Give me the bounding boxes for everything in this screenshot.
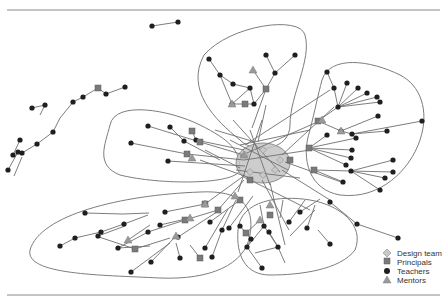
teacher-node (95, 233, 100, 238)
network-edges (8, 22, 422, 272)
teacher-node (353, 135, 358, 140)
principal-node (311, 167, 317, 173)
edge (314, 170, 343, 182)
principal-node (215, 207, 221, 213)
teacher-node (15, 149, 20, 154)
edge (170, 127, 184, 141)
teacher-node (349, 147, 354, 152)
edge (275, 55, 295, 73)
teacher-node (364, 90, 369, 95)
edge (165, 204, 205, 212)
legend: Design team Principals Teachers Mentors (383, 249, 442, 285)
teacher-node (272, 70, 277, 75)
edge (255, 247, 278, 253)
teacher-node (72, 235, 77, 240)
teacher-node (395, 235, 400, 240)
principal-node (263, 86, 269, 92)
edge (106, 87, 125, 94)
edge (351, 160, 393, 171)
edge (330, 202, 357, 224)
edge (266, 55, 275, 73)
principal-node (184, 151, 190, 157)
edge (205, 209, 228, 248)
edge (282, 170, 330, 200)
legend-item-design-team: Design team (383, 249, 442, 258)
principal-node (267, 212, 273, 218)
circle-icon (384, 268, 390, 274)
teacher-node (377, 99, 382, 104)
teacher-node (5, 167, 10, 172)
teacher-node (374, 94, 379, 99)
teacher-node (175, 19, 180, 24)
edge (209, 59, 220, 75)
teacher-node (354, 221, 359, 226)
teacher-node (165, 158, 170, 163)
principal-node (306, 145, 312, 151)
edge (118, 232, 148, 248)
teacher-node (70, 99, 75, 104)
edge (14, 157, 22, 176)
teacher-node (275, 244, 280, 249)
legend-item-teachers: Teachers (384, 267, 429, 276)
legend-item-mentors: Mentors (383, 276, 426, 285)
edge (233, 84, 250, 88)
teacher-node (237, 223, 242, 228)
teacher-node (207, 219, 212, 224)
cluster-hulls (30, 25, 424, 279)
teacher-node (355, 85, 360, 90)
edge (215, 130, 255, 142)
principal-node (242, 101, 248, 107)
legend-label: Mentors (397, 276, 426, 285)
edge (352, 131, 387, 134)
teacher-node (263, 52, 268, 57)
edge (309, 148, 346, 165)
teacher-node (247, 85, 252, 90)
teacher-node (219, 227, 224, 232)
legend-label: Design team (397, 249, 442, 258)
teacher-node (324, 132, 329, 137)
edge (148, 220, 185, 232)
teacher-node (335, 104, 340, 109)
cluster-hull (198, 25, 306, 149)
legend-label: Principals (397, 258, 432, 267)
teacher-node (206, 56, 211, 61)
teacher-node (377, 187, 382, 192)
teacher-node (149, 23, 154, 28)
edge (60, 102, 73, 118)
teacher-node (343, 162, 348, 167)
teacher-node (349, 131, 354, 136)
teacher-node (217, 72, 222, 77)
teacher-node (230, 81, 235, 86)
principal-node (189, 128, 195, 134)
edge (152, 22, 178, 26)
edge (338, 102, 380, 107)
edge (37, 132, 53, 144)
teacher-node (82, 210, 87, 215)
teacher-node (57, 243, 62, 248)
mentor-node (124, 236, 132, 243)
edge (290, 210, 315, 236)
edge (124, 215, 148, 224)
network-diagram: Design team Principals Teachers Mentors (0, 0, 447, 300)
diamond-icon (383, 249, 391, 257)
teacher-node (128, 140, 133, 145)
teacher-node (331, 85, 336, 90)
edge (278, 247, 285, 263)
teacher-node (419, 118, 424, 123)
triangle-icon (383, 276, 391, 283)
teacher-node (324, 69, 329, 74)
edge (300, 199, 320, 212)
teacher-node (384, 128, 389, 133)
edge (123, 213, 149, 214)
edge (314, 170, 351, 171)
teacher-node (244, 244, 249, 249)
principal-node (197, 139, 203, 145)
teacher-node (10, 152, 15, 157)
edge (247, 247, 262, 268)
mentor-node (337, 127, 345, 134)
teacher-node (292, 52, 297, 57)
edge (168, 161, 245, 166)
teacher-node (148, 259, 153, 264)
teacher-node (259, 265, 264, 270)
teacher-node (382, 175, 387, 180)
